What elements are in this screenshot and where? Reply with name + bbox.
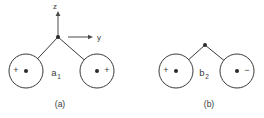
right-atom-center-dot [95,69,99,73]
caption-b: (b) [204,99,215,109]
z-axis-group: z [53,2,60,37]
left-atom-center-dot [174,69,178,73]
left-atom-sign: + [13,65,18,75]
central-atom-node [203,43,207,47]
molecular-mode-figure: z y + + [0,0,264,118]
mode-label-subscript: 1 [57,73,61,80]
left-atom: + [9,54,43,88]
left-atom-center-dot [24,69,28,73]
mode-label-base: b [199,67,204,78]
right-atom: − [220,54,254,88]
y-axis-arrowhead [88,35,93,40]
z-axis-arrowhead [56,11,61,16]
y-axis-group: y [68,33,101,42]
mode-label-subscript: 2 [205,73,209,80]
central-atom-node [56,35,60,39]
y-axis-label: y [97,33,101,42]
left-atom: + [159,54,193,88]
z-axis-label: z [53,2,57,11]
panel-b: + − b 2 (b) [159,43,254,109]
mode-label-b: b 2 [199,67,209,80]
right-atom-sign: + [104,65,109,75]
right-atom: + [80,54,114,88]
panel-a: z y + + [9,2,114,109]
right-atom-center-dot [235,69,239,73]
figure-root: z y + + [0,0,264,118]
mode-label-a: a 1 [51,67,61,80]
caption-a: (a) [55,99,66,109]
left-atom-sign: + [163,65,168,75]
right-atom-sign: − [244,65,249,75]
